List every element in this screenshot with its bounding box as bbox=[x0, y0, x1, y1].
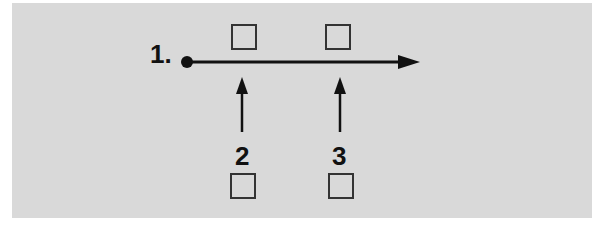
bottom-box-2[interactable] bbox=[230, 173, 256, 199]
top-box-1[interactable] bbox=[231, 24, 257, 50]
bottom-box-3[interactable] bbox=[328, 173, 354, 199]
label-3: 3 bbox=[332, 143, 346, 169]
up-arrow-3-icon bbox=[334, 77, 346, 94]
timeline-arrowhead-icon bbox=[398, 55, 420, 69]
label-2: 2 bbox=[235, 143, 249, 169]
diagram-lines bbox=[0, 0, 595, 231]
top-box-2[interactable] bbox=[325, 24, 351, 50]
start-label: 1. bbox=[150, 41, 172, 67]
up-arrow-2-icon bbox=[236, 77, 248, 94]
